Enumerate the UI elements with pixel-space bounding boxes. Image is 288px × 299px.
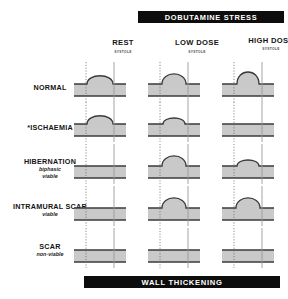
column-header-low-dose: LOW DOSE SYSTOLE xyxy=(160,38,234,54)
cell-intramural-scar-rest xyxy=(72,186,128,226)
cell-scar-rest xyxy=(72,228,128,268)
cell-ischaemia-rest xyxy=(72,102,128,142)
cell-hibernation-high-dose xyxy=(220,144,276,184)
cell-normal-low-dose xyxy=(146,62,202,102)
column-header-rest-systole: SYSTOLE xyxy=(86,50,160,54)
column-header-high-dose-label: HIGH DOSE xyxy=(234,36,288,45)
column-header-rest-label: REST xyxy=(86,38,160,47)
cell-normal-high-dose xyxy=(220,62,276,102)
cell-intramural-scar-low-dose xyxy=(146,186,202,226)
column-header-rest: REST SYSTOLE xyxy=(86,38,160,54)
cell-ischaemia-low-dose xyxy=(146,102,202,142)
wall-thickening-banner: WALL THICKENING xyxy=(84,276,280,288)
column-header-low-dose-label: LOW DOSE xyxy=(160,38,234,47)
cell-hibernation-low-dose xyxy=(146,144,202,184)
cell-scar-low-dose xyxy=(146,228,202,268)
column-header-high-dose-systole: SYSTOLE xyxy=(234,47,288,51)
dobutamine-stress-wall-thickening-figure: DOBUTAMINE STRESS REST SYSTOLE LOW DOSE … xyxy=(0,0,288,299)
cell-intramural-scar-high-dose xyxy=(220,186,276,226)
cell-ischaemia-high-dose xyxy=(220,102,276,142)
cell-hibernation-rest xyxy=(72,144,128,184)
dobutamine-stress-banner: DOBUTAMINE STRESS xyxy=(138,11,284,23)
column-header-high-dose: HIGH DOSE SYSTOLE xyxy=(234,36,288,51)
cell-normal-rest xyxy=(72,62,128,102)
column-header-low-dose-systole: SYSTOLE xyxy=(160,50,234,54)
cell-scar-high-dose xyxy=(220,228,276,268)
